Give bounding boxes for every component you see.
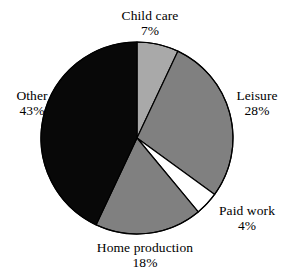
pie-label-paid-work-value: 4% (208, 218, 286, 233)
pie-label-child-care-name: Child care (98, 8, 202, 23)
pie-label-home-production: Home production 18% (78, 240, 212, 270)
pie-label-leisure-name: Leisure (228, 88, 286, 103)
pie-label-home-production-value: 18% (78, 255, 212, 270)
pie-label-other-value: 43% (2, 103, 62, 118)
pie-label-home-production-name: Home production (78, 240, 212, 255)
pie-label-child-care-value: 7% (98, 23, 202, 38)
pie-label-leisure: Leisure 28% (228, 88, 286, 118)
pie-label-other: Other 43% (2, 88, 62, 118)
pie-label-paid-work: Paid work 4% (208, 203, 286, 233)
pie-chart-canvas (0, 0, 288, 279)
pie-slice-group (41, 42, 233, 234)
pie-label-paid-work-name: Paid work (208, 203, 286, 218)
pie-label-leisure-value: 28% (228, 103, 286, 118)
pie-label-child-care: Child care 7% (98, 8, 202, 38)
pie-chart: Child care 7% Leisure 28% Paid work 4% H… (0, 0, 288, 279)
pie-label-other-name: Other (2, 88, 62, 103)
